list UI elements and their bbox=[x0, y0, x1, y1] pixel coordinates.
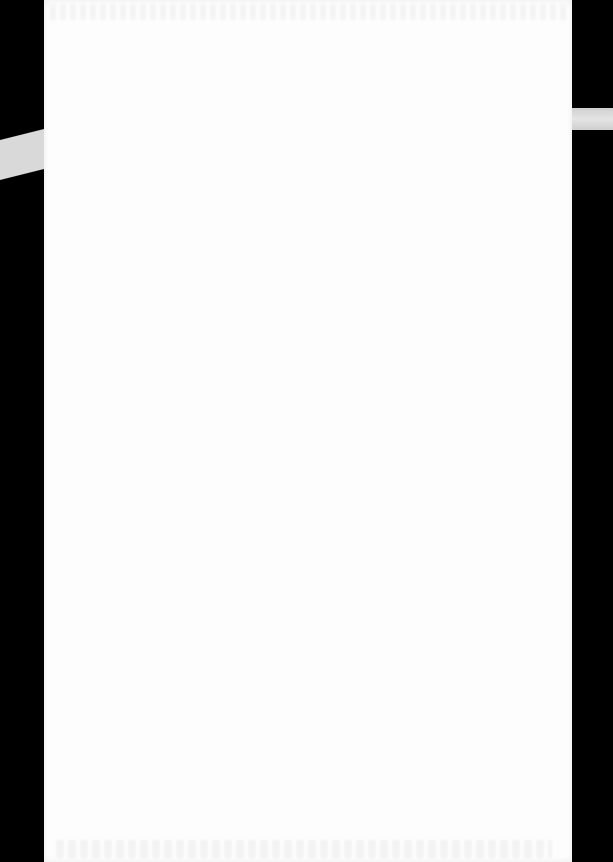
scan-edge-strip-right bbox=[572, 108, 613, 130]
document-page bbox=[44, 0, 572, 862]
page-content bbox=[44, 0, 45, 1]
show-through-text-bottom bbox=[56, 840, 552, 858]
scan-edge-strip-left bbox=[0, 129, 46, 180]
show-through-text-top bbox=[50, 4, 566, 20]
